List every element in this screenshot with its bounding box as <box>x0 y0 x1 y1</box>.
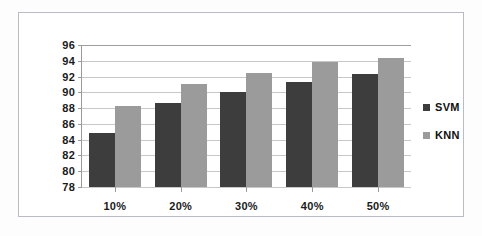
x-tick-mark <box>246 187 247 192</box>
bar-knn[interactable] <box>246 73 272 187</box>
bar-group: 20% <box>148 45 214 187</box>
bar-svm[interactable] <box>89 133 115 187</box>
y-tick-label: 78 <box>62 181 75 193</box>
x-tick-mark <box>378 187 379 192</box>
x-tick-mark <box>115 187 116 192</box>
bar-groups: 10%20%30%40%50% <box>82 45 411 187</box>
square-swatch-dark-icon <box>423 104 430 111</box>
y-tick-label: 88 <box>62 102 75 114</box>
bar-knn[interactable] <box>115 106 141 187</box>
x-tick-label: 20% <box>148 200 214 212</box>
bar-group: 50% <box>345 45 411 187</box>
chart-legend: SVM KNN <box>423 101 460 141</box>
legend-item-label: KNN <box>435 129 460 141</box>
x-tick-label: 50% <box>345 200 411 212</box>
y-tick-label: 82 <box>62 149 75 161</box>
bar-svm[interactable] <box>155 103 181 187</box>
square-swatch-gray-icon <box>423 132 430 139</box>
y-tick-label: 94 <box>62 55 75 67</box>
x-tick-label: 10% <box>82 200 148 212</box>
legend-item-knn[interactable]: KNN <box>423 129 460 141</box>
x-tick-label: 30% <box>214 200 280 212</box>
y-tick-label: 86 <box>62 118 75 130</box>
bar-group: 40% <box>279 45 345 187</box>
bar-knn[interactable] <box>312 62 338 187</box>
chart-frame: 96949290888684828078 10%20%30%40%50% SVM… <box>18 12 464 217</box>
legend-item-svm[interactable]: SVM <box>423 101 460 113</box>
bar-group: 10% <box>82 45 148 187</box>
bar-svm[interactable] <box>286 82 312 187</box>
plot-area: 96949290888684828078 10%20%30%40%50% <box>81 45 411 188</box>
x-tick-mark <box>312 187 313 192</box>
bar-knn[interactable] <box>378 58 404 187</box>
x-tick-label: 40% <box>279 200 345 212</box>
bar-knn[interactable] <box>181 84 207 187</box>
legend-item-label: SVM <box>435 101 460 113</box>
y-tick-label: 96 <box>62 39 75 51</box>
page-background: 96949290888684828078 10%20%30%40%50% SVM… <box>0 0 482 236</box>
y-tick-label: 92 <box>62 71 75 83</box>
y-tick-mark <box>78 187 82 188</box>
y-tick-label: 84 <box>62 134 75 146</box>
bar-svm[interactable] <box>352 74 378 187</box>
bar-group: 30% <box>214 45 280 187</box>
x-tick-mark <box>181 187 182 192</box>
bar-svm[interactable] <box>220 92 246 187</box>
y-tick-label: 90 <box>62 86 75 98</box>
y-tick-label: 80 <box>62 165 75 177</box>
